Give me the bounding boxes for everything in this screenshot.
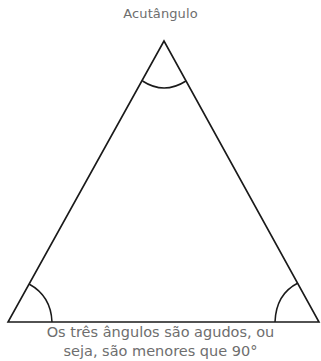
left-base-angle-arc	[29, 284, 52, 322]
apex-angle-arc	[143, 81, 187, 88]
diagram-caption: Os três ângulos são agudos, ou seja, são…	[0, 323, 321, 361]
caption-line-2: seja, são menores que 90°	[0, 342, 321, 361]
caption-line-1: Os três ângulos são agudos, ou	[0, 323, 321, 342]
right-base-angle-arc	[275, 283, 298, 322]
triangle-shape	[8, 41, 319, 322]
